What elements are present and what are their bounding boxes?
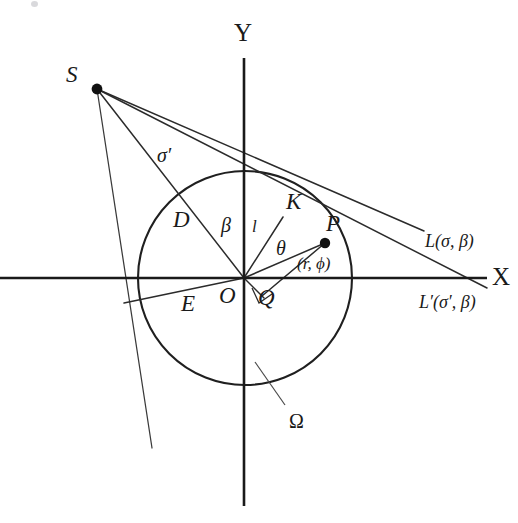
point-dot-p	[320, 238, 330, 248]
angle-label-theta: θ	[276, 238, 286, 258]
geometry-figure: Y X S P K Q O σ′ D β l θ E (r, ϕ) L(σ, β…	[0, 0, 518, 523]
segment-label-l: l	[252, 218, 257, 235]
y-axis-label: Y	[234, 20, 252, 45]
ray-s-steep-descending	[97, 89, 152, 448]
ray-s-to-line-L	[97, 89, 424, 231]
polar-coordinate-label-p: (r, ϕ)	[297, 255, 330, 272]
line-label-L: L(σ, β)	[425, 232, 474, 250]
point-label-o: O	[219, 284, 236, 307]
segment-label-e: E	[181, 292, 195, 315]
point-label-k: K	[286, 190, 301, 213]
angle-label-beta: β	[221, 215, 231, 235]
line-label-L-prime: L′(σ′, β)	[419, 293, 476, 311]
x-axis-label: X	[492, 264, 510, 289]
ray-s-to-origin	[97, 89, 244, 278]
circle-label-omega: Ω	[289, 411, 304, 431]
point-label-q: Q	[258, 286, 275, 309]
point-label-s: S	[66, 63, 78, 86]
point-dot-s	[92, 84, 103, 95]
segment-label-sigma-prime: σ′	[157, 145, 171, 165]
segment-label-d: D	[173, 208, 190, 231]
point-label-p: P	[326, 212, 340, 235]
